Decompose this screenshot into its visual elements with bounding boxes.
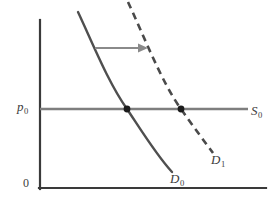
equilibrium-point-new: [178, 106, 185, 113]
demand-curve-label-d1: D1: [211, 153, 225, 166]
demand-curve-d0: [78, 12, 172, 172]
demand-shifted-label-subscript: 1: [221, 159, 225, 169]
supply-label-base: S: [251, 103, 258, 118]
price-axis-label-p0: p0: [17, 100, 28, 113]
demand-initial-label-base: D: [170, 171, 179, 186]
price-label-base: p: [17, 99, 24, 114]
supply-demand-figure: p0 0 S0 D0 D1: [0, 0, 270, 206]
demand-shifted-label-base: D: [211, 152, 220, 167]
supply-label-subscript: 0: [258, 110, 262, 120]
demand-initial-label-subscript: 0: [180, 178, 184, 188]
shift-arrow-head-icon: [138, 44, 148, 53]
price-label-subscript: 0: [24, 106, 28, 116]
origin-label: 0: [23, 177, 29, 189]
supply-curve-label-s0: S0: [251, 104, 262, 117]
figure-canvas: [0, 0, 270, 206]
equilibrium-point-initial: [124, 106, 131, 113]
demand-curve-label-d0: D0: [170, 172, 184, 185]
